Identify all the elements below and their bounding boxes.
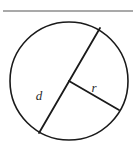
circle-diagram-svg: d r bbox=[0, 0, 136, 150]
diameter-label: d bbox=[36, 88, 43, 103]
geometry-figure-container: d r bbox=[0, 0, 136, 150]
